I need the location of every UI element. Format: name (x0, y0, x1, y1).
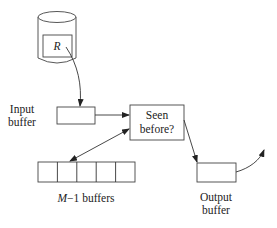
check-to-output-arrow (184, 120, 197, 162)
output-buffer: Output buffer (197, 163, 236, 216)
input-buffer-label-2: buffer (8, 116, 36, 128)
relation-r-label: R (52, 40, 60, 52)
duplicate-elimination-diagram: R Input buffer Seen before? M−1 buffers … (0, 0, 277, 228)
check-label-2: before? (140, 123, 174, 135)
check-buffers-arrow (70, 129, 129, 161)
buffers-label: M−1 buffers (56, 192, 115, 204)
seen-before-check: Seen before? (130, 105, 184, 140)
m-minus-1-buffers: M−1 buffers (38, 162, 135, 204)
output-arrow (236, 150, 264, 172)
input-buffer-label-1: Input (10, 103, 35, 116)
disk-cylinder: R (38, 12, 76, 64)
check-label-1: Seen (146, 109, 169, 121)
output-buffer-label-2: buffer (202, 204, 230, 216)
input-buffer: Input buffer (8, 103, 95, 128)
output-buffer-label-1: Output (200, 191, 233, 204)
